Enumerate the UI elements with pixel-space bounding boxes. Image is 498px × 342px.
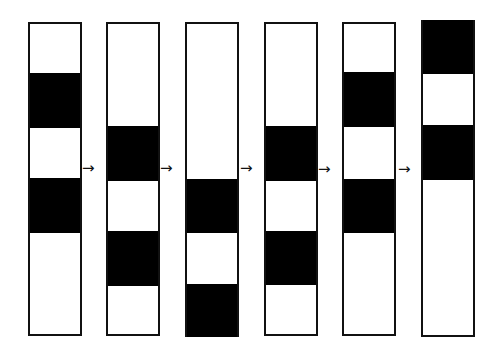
bar-column-1 [28, 22, 82, 336]
bar-column-3 [185, 22, 239, 337]
black-band [266, 231, 316, 285]
black-band [108, 231, 158, 286]
black-band [30, 73, 80, 128]
bar-column-4 [264, 22, 318, 336]
black-band [423, 20, 473, 74]
bar-column-6 [421, 20, 475, 337]
black-band [187, 179, 237, 233]
right-arrow-icon: → [160, 161, 173, 176]
black-band [266, 126, 316, 181]
right-arrow-icon: → [398, 162, 411, 177]
right-arrow-icon: → [82, 161, 95, 176]
right-arrow-icon: → [318, 162, 331, 177]
black-band [108, 126, 158, 181]
bar-column-5 [342, 22, 396, 336]
black-band [344, 179, 394, 233]
black-band [423, 125, 473, 180]
black-band [30, 178, 80, 233]
right-arrow-icon: → [240, 161, 253, 176]
black-band [344, 72, 394, 127]
black-band [187, 284, 237, 337]
bar-column-2 [106, 22, 160, 336]
